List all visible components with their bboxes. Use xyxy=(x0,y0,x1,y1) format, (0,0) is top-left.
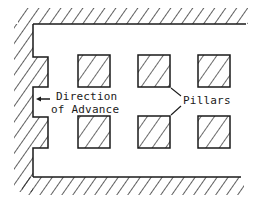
pillar xyxy=(198,55,230,87)
pillar xyxy=(138,116,170,148)
bottom-rib-wall xyxy=(22,177,244,195)
pillars-leader-lines xyxy=(171,88,181,115)
pillar xyxy=(78,55,110,87)
direction-arrow-icon xyxy=(36,97,50,102)
pillar xyxy=(78,116,110,148)
pillars-label: Pillars xyxy=(183,95,231,107)
pillar xyxy=(138,55,170,87)
left-face-wall xyxy=(14,24,50,192)
direction-label-line2: of Advance xyxy=(51,104,119,116)
direction-label-line1: Direction xyxy=(56,91,117,103)
pillar xyxy=(198,116,230,148)
top-rib-wall xyxy=(18,8,248,24)
